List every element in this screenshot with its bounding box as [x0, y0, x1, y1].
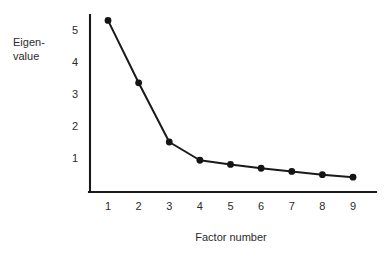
x-axis-title: Factor number [195, 231, 267, 243]
y-tick-label-3: 3 [72, 88, 78, 100]
series-markers [105, 17, 357, 181]
y-tick-label-1: 1 [72, 152, 78, 164]
x-tick-label-4: 4 [197, 200, 203, 212]
x-tick-label-3: 3 [166, 200, 172, 212]
plot-canvas: 12345 123456789 Eigen- value Factor numb… [0, 0, 385, 258]
data-point-factor-7 [288, 168, 295, 175]
y-axis-title-line2: value [13, 50, 39, 62]
x-tick-label-9: 9 [350, 200, 356, 212]
x-tick-label-6: 6 [258, 200, 264, 212]
y-axis-title-line1: Eigen- [13, 36, 45, 48]
series-line-eigenvalue [108, 20, 353, 177]
data-point-factor-4 [196, 157, 203, 164]
data-series-eigenvalue [105, 17, 357, 181]
x-tick-label-8: 8 [319, 200, 325, 212]
x-tick-label-7: 7 [289, 200, 295, 212]
y-tick-label-5: 5 [72, 24, 78, 36]
data-point-factor-9 [350, 174, 357, 181]
x-axis-tick-labels: 123456789 [105, 200, 356, 212]
scree-plot-figure: 12345 123456789 Eigen- value Factor numb… [0, 0, 385, 258]
x-tick-label-1: 1 [105, 200, 111, 212]
y-axis-tick-labels: 12345 [72, 24, 78, 164]
data-point-factor-3 [166, 139, 173, 146]
data-point-factor-2 [135, 79, 142, 86]
data-point-factor-5 [227, 161, 234, 168]
data-point-factor-6 [258, 165, 265, 172]
y-tick-label-4: 4 [72, 56, 78, 68]
x-tick-label-5: 5 [227, 200, 233, 212]
data-point-factor-1 [105, 17, 112, 24]
x-tick-label-2: 2 [136, 200, 142, 212]
data-point-factor-8 [319, 171, 326, 178]
y-tick-label-2: 2 [72, 120, 78, 132]
